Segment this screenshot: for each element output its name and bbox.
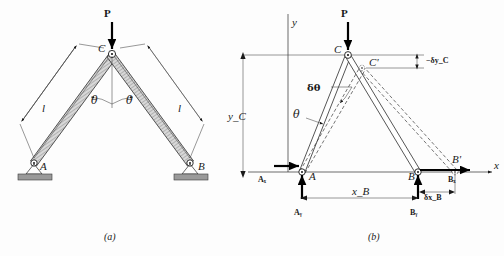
engineering-figure: P C A B l l θ θ (a) y x P C C' A B B' Aₓ… bbox=[0, 0, 504, 256]
label-apex-c-prime: C' bbox=[369, 56, 379, 68]
label-theta-left-a: θ bbox=[91, 94, 98, 107]
label-axis-x: x bbox=[493, 159, 499, 171]
label-layer: P C A B l l θ θ (a) y x P C C' A B B' Aₓ… bbox=[0, 0, 504, 256]
label-reaction-by: Bᵧ bbox=[410, 208, 418, 217]
label-apex-c-a: C bbox=[98, 42, 106, 54]
label-apex-c-b: C bbox=[334, 43, 342, 55]
label-reaction-ay: Aᵧ bbox=[294, 208, 303, 217]
label-delta-theta: δθ bbox=[307, 82, 321, 93]
label-theta-b-alt: θ bbox=[293, 108, 300, 121]
caption-b: (b) bbox=[368, 231, 380, 243]
label-delta-yc: −δy_C bbox=[426, 56, 449, 65]
caption-a: (a) bbox=[104, 231, 116, 243]
label-pin-b-prime: B' bbox=[452, 153, 462, 165]
label-dim-xb: x_B bbox=[351, 185, 369, 197]
label-support-a: A bbox=[39, 160, 47, 172]
label-delta-xb: δx_B bbox=[424, 193, 442, 202]
label-reaction-bx: Bₓ bbox=[448, 175, 456, 184]
label-dim-yc: y_C bbox=[227, 110, 246, 122]
label-length-left-a: l bbox=[42, 102, 45, 114]
label-pin-a-b: A bbox=[308, 170, 316, 182]
label-support-b: B bbox=[198, 160, 205, 172]
label-axis-y: y bbox=[291, 16, 297, 28]
label-reaction-ax: Aₓ bbox=[258, 175, 267, 184]
label-load-p-b: P bbox=[341, 7, 348, 19]
label-length-right-a: l bbox=[178, 102, 181, 114]
label-pin-b-b: B bbox=[408, 170, 415, 182]
label-load-p-a: P bbox=[104, 7, 111, 19]
label-theta-right-a: θ bbox=[126, 94, 133, 107]
